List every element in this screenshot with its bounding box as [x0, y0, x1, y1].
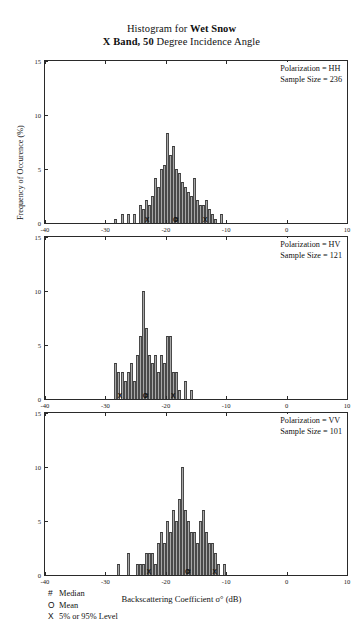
x-tick-label: 10: [344, 578, 351, 585]
title-line-2: X Band, 50 Degree Incidence Angle: [0, 35, 363, 48]
x-tick-label: -10: [222, 402, 231, 409]
stat-marker-percentile: X: [171, 392, 175, 399]
x-tick: [226, 60, 227, 64]
x-tick: [105, 396, 106, 400]
histogram-bar: [217, 564, 220, 575]
x-tick: [105, 220, 106, 224]
median-label: Median: [59, 589, 85, 598]
title-line-1: Histogram for Wet Snow: [0, 22, 363, 35]
y-tick-label: 10: [30, 464, 41, 471]
panel-annotation: Polarization = HHSample Size = 236: [274, 62, 346, 87]
x-tick-label: -30: [101, 578, 110, 585]
x-tick: [347, 396, 348, 400]
y-tick-label: 0: [30, 396, 41, 403]
y-tick-label: 10: [30, 288, 41, 295]
y-tick-label: 5: [30, 342, 41, 349]
histogram-bar: [121, 214, 124, 223]
stat-marker-percentile: X: [118, 392, 122, 399]
x-tick: [347, 412, 348, 416]
x-tick-label: 0: [285, 402, 288, 409]
x-tick: [347, 572, 348, 576]
title-angle: Degree Incidence Angle: [154, 36, 260, 47]
histogram-bar: [178, 390, 181, 399]
y-tick: [44, 399, 48, 400]
histogram-bar: [127, 214, 130, 223]
y-tick: [44, 115, 48, 116]
percentile-label: 5% or 95% Level: [59, 612, 118, 621]
sample-size-label: Sample Size = 121: [280, 251, 342, 262]
stat-marker-median: #: [187, 568, 191, 575]
y-tick-label: 15: [30, 410, 41, 417]
x-tick: [287, 572, 288, 576]
stat-marker-percentile: X: [147, 568, 151, 575]
y-tick: [44, 413, 48, 414]
polarization-label: Polarization = VV: [280, 416, 342, 427]
histogram-bar: [127, 553, 130, 575]
x-tick-label: 10: [344, 402, 351, 409]
x-tick: [226, 396, 227, 400]
histogram-bar: [220, 214, 223, 223]
x-tick-label: -40: [41, 402, 50, 409]
x-tick: [347, 236, 348, 240]
x-tick: [105, 60, 106, 64]
y-tick-label: 10: [30, 112, 41, 119]
x-tick: [166, 220, 167, 224]
y-tick: [44, 575, 48, 576]
y-tick: [44, 345, 48, 346]
x-tick-label: 0: [285, 578, 288, 585]
y-tick: [44, 61, 48, 62]
y-tick: [44, 521, 48, 522]
x-tick: [166, 396, 167, 400]
polarization-label: Polarization = HH: [280, 64, 342, 75]
x-tick: [226, 572, 227, 576]
y-tick: [44, 169, 48, 170]
histogram-bar: [190, 390, 193, 399]
x-tick-label: 0: [285, 226, 288, 233]
stat-marker-median: #: [175, 216, 179, 223]
x-tick: [105, 572, 106, 576]
y-tick: [44, 291, 48, 292]
key-item-mean: OMean: [48, 600, 118, 612]
median-symbol: #: [48, 588, 59, 600]
x-tick-label: -40: [41, 226, 50, 233]
stat-marker-percentile: X: [213, 568, 217, 575]
x-tick: [166, 236, 167, 240]
histogram-bar: [133, 214, 136, 223]
percentile-symbol: X: [48, 611, 59, 623]
x-tick-label: -40: [41, 578, 50, 585]
x-tick: [166, 572, 167, 576]
sample-size-label: Sample Size = 101: [280, 427, 342, 438]
y-tick-label: 15: [30, 58, 41, 65]
mean-label: Mean: [59, 601, 78, 610]
figure-page: Histogram for Wet Snow X Band, 50 Degree…: [0, 0, 363, 638]
panel-annotation: Polarization = VVSample Size = 101: [274, 414, 346, 439]
histogram-bar: [214, 219, 217, 223]
histogram-bar: [117, 564, 120, 575]
histogram-bar: [114, 219, 117, 223]
figure-title: Histogram for Wet Snow X Band, 50 Degree…: [0, 22, 363, 48]
x-tick: [105, 412, 106, 416]
histogram-bar: [184, 381, 187, 399]
x-tick: [226, 412, 227, 416]
x-tick-label: -20: [161, 226, 170, 233]
title-band: X Band, 50: [103, 36, 154, 47]
mean-symbol: O: [48, 600, 59, 612]
histogram-panel-hh: XO#X-40-30-20-10010051015Polarization = …: [44, 60, 348, 224]
title-prefix: Histogram for: [127, 23, 190, 34]
y-tick-label: 0: [30, 572, 41, 579]
stat-marker-percentile: X: [145, 216, 149, 223]
histogram-panel-vv: XO#X-40-30-20-10010051015Polarization = …: [44, 412, 348, 576]
x-tick: [347, 220, 348, 224]
x-tick: [105, 236, 106, 240]
stat-marker-median: #: [145, 392, 149, 399]
stat-marker-percentile: X: [203, 216, 207, 223]
histogram-panel-hv: XO#X-40-30-20-10010051015Polarization = …: [44, 236, 348, 400]
x-tick-label: -30: [101, 402, 110, 409]
y-tick-label: 15: [30, 234, 41, 241]
sample-size-label: Sample Size = 236: [280, 75, 342, 86]
y-axis-title: Frequency of Occurence (%): [16, 125, 25, 220]
key-item-percentile: X5% or 95% Level: [48, 611, 118, 623]
x-tick: [166, 60, 167, 64]
y-tick: [44, 467, 48, 468]
title-subject: Wet Snow: [190, 23, 236, 34]
